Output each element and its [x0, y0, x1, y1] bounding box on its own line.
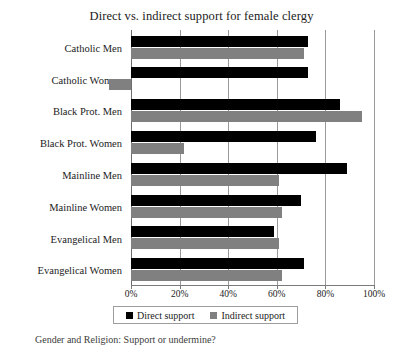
x-tick-label: 60% — [257, 289, 297, 299]
bar-row: Mainline Women — [0, 191, 403, 223]
bar-direct — [131, 36, 308, 47]
chart-title: Direct vs. indirect support for female c… — [0, 9, 403, 24]
bar-indirect — [131, 175, 279, 186]
bar-direct — [131, 131, 316, 142]
bar-direct — [131, 195, 301, 206]
category-label: Evangelical Men — [0, 233, 122, 244]
legend-item-indirect[interactable]: Indirect support — [210, 310, 285, 321]
bar-indirect — [131, 48, 304, 59]
legend-swatch-direct-icon — [126, 312, 133, 319]
bar-indirect — [131, 207, 282, 218]
figure-caption: Gender and Religion: Support or undermin… — [35, 334, 375, 345]
category-label: Catholic Men — [0, 42, 122, 53]
bar-rows: Catholic MenCatholic WomenBlack Prot. Me… — [0, 30, 403, 285]
x-tick-label: 80% — [305, 289, 345, 299]
bar-row: Mainline Men — [0, 159, 403, 191]
bar-indirect — [109, 79, 131, 90]
bar-row: Black Prot. Men — [0, 96, 403, 128]
plot-area: Catholic MenCatholic WomenBlack Prot. Me… — [0, 30, 403, 285]
bar-direct — [131, 99, 340, 110]
bar-row: Black Prot. Women — [0, 127, 403, 159]
bar-direct — [131, 163, 347, 174]
category-label: Catholic Women — [0, 74, 122, 85]
x-tick-label: 20% — [160, 289, 200, 299]
category-label: Mainline Men — [0, 170, 122, 181]
x-tick-label: 100% — [354, 289, 394, 299]
chart-legend: Direct support Indirect support — [113, 306, 298, 324]
bar-row: Catholic Women — [0, 64, 403, 96]
x-tick-label: 40% — [208, 289, 248, 299]
bar-row: Catholic Men — [0, 32, 403, 64]
bar-indirect — [131, 143, 184, 154]
bar-indirect — [131, 238, 279, 249]
bar-indirect — [131, 111, 362, 122]
bar-indirect — [131, 270, 282, 281]
legend-label-direct: Direct support — [137, 310, 195, 321]
category-label: Black Prot. Women — [0, 138, 122, 149]
category-label: Evangelical Women — [0, 265, 122, 276]
category-label: Black Prot. Men — [0, 106, 122, 117]
legend-swatch-indirect-icon — [210, 312, 217, 319]
bar-direct — [131, 258, 304, 269]
category-label: Mainline Women — [0, 201, 122, 212]
bar-row: Evangelical Men — [0, 223, 403, 255]
bar-row: Evangelical Women — [0, 255, 403, 287]
bar-direct — [131, 67, 308, 78]
legend-label-indirect: Indirect support — [221, 310, 285, 321]
bar-direct — [131, 226, 274, 237]
x-axis-line — [131, 285, 374, 286]
x-tick-label: 0% — [111, 289, 151, 299]
legend-item-direct[interactable]: Direct support — [126, 310, 195, 321]
